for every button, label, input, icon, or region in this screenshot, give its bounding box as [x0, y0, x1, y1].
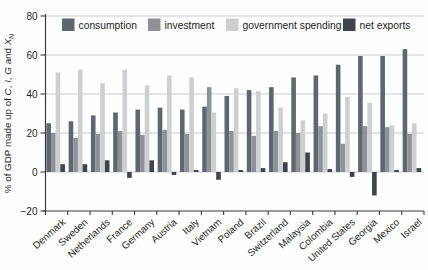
bar-net-exports [372, 172, 377, 195]
bar-consumption [403, 49, 408, 172]
bar-consumption [158, 108, 163, 172]
x-axis-label: Austria [149, 216, 179, 245]
x-axis-label: Israel [399, 216, 424, 240]
bar-government-spending [145, 85, 150, 172]
bar-government-spending [323, 114, 328, 173]
bar-net-exports [83, 164, 88, 172]
bar-consumption [314, 75, 319, 172]
bar-net-exports [328, 169, 333, 172]
bar-government-spending [212, 113, 217, 172]
bar-chart: −20020406080DenmarkSwedenNetherlandsFran… [0, 0, 428, 270]
bar-net-exports [194, 170, 199, 172]
bar-investment [340, 144, 345, 172]
bar-investment [407, 134, 412, 172]
bar-government-spending [78, 70, 83, 172]
bar-consumption [180, 110, 185, 172]
bar-government-spending [189, 77, 194, 172]
bar-consumption [46, 123, 51, 172]
bar-government-spending [278, 108, 283, 172]
bar-investment [118, 131, 123, 172]
y-tick-label: 80 [26, 11, 38, 22]
bar-government-spending [412, 123, 417, 172]
bar-net-exports [105, 160, 110, 172]
bar-consumption [269, 87, 274, 172]
bar-net-exports [394, 170, 399, 172]
legend-swatch-investment [148, 19, 161, 32]
legend-item-government-spending: government spending [226, 19, 342, 32]
bar-net-exports [283, 162, 288, 172]
series-investment [51, 87, 412, 172]
bar-consumption [358, 56, 363, 172]
bar-investment [73, 138, 78, 172]
y-tick-label: −20 [21, 206, 38, 217]
legend-label: net exports [360, 20, 411, 31]
bar-investment [385, 127, 390, 172]
bar-net-exports [60, 164, 65, 172]
bar-government-spending [167, 75, 172, 172]
legend-label: government spending [243, 20, 342, 31]
bar-investment [274, 131, 279, 172]
legend-swatch-government-spending [226, 19, 239, 32]
bar-government-spending [56, 73, 61, 172]
bar-net-exports [350, 172, 355, 177]
legend-label: investment [165, 20, 215, 31]
bar-net-exports [305, 153, 310, 173]
legend-item-net-exports: net exports [343, 19, 410, 32]
legend-item-consumption: consumption [62, 19, 137, 32]
bar-investment [363, 126, 368, 172]
y-tick-label: 40 [26, 89, 38, 100]
bar-investment [296, 133, 301, 172]
bar-investment [96, 134, 101, 172]
y-tick-label: 0 [32, 167, 38, 178]
y-tick-label: 60 [26, 50, 38, 61]
bar-government-spending [345, 97, 350, 172]
bar-consumption [69, 121, 74, 172]
bar-investment [140, 135, 145, 172]
x-axis-label: Mexico [371, 216, 402, 245]
bar-net-exports [261, 168, 266, 172]
bar-government-spending [122, 70, 127, 172]
bar-investment [207, 87, 212, 172]
bar-net-exports [127, 172, 132, 178]
bar-consumption [113, 113, 118, 172]
bar-net-exports [238, 170, 243, 172]
bar-government-spending [301, 120, 306, 172]
bar-investment [318, 126, 323, 172]
bar-net-exports [417, 168, 422, 172]
bar-consumption [91, 115, 96, 172]
bar-investment [162, 130, 167, 172]
bar-net-exports [216, 172, 221, 180]
bar-consumption [291, 77, 296, 172]
legend-swatch-net-exports [343, 19, 356, 32]
bar-consumption [135, 110, 140, 172]
legend: consumptioninvestmentgovernment spending… [62, 19, 410, 32]
legend-label: consumption [79, 20, 138, 31]
bar-investment [251, 136, 256, 172]
bar-consumption [247, 90, 252, 172]
legend-item-investment: investment [148, 19, 214, 32]
bar-consumption [336, 65, 341, 172]
bar-government-spending [390, 125, 395, 172]
bar-consumption [380, 56, 385, 172]
bar-net-exports [172, 172, 177, 175]
bar-government-spending [256, 91, 261, 172]
bar-government-spending [367, 103, 372, 172]
bar-government-spending [100, 83, 105, 172]
chart-figure: −20020406080DenmarkSwedenNetherlandsFran… [0, 0, 428, 270]
bar-investment [51, 133, 56, 172]
bar-investment [229, 131, 234, 172]
x-axis-label: Poland [216, 216, 246, 245]
y-axis-title: % of GDP made up of C, I, G and XN [2, 34, 15, 194]
bar-government-spending [234, 88, 239, 172]
bar-consumption [202, 107, 207, 172]
bar-net-exports [149, 160, 154, 172]
legend-swatch-consumption [62, 19, 75, 32]
bar-investment [185, 134, 190, 172]
bar-consumption [225, 96, 230, 172]
y-tick-label: 20 [26, 128, 38, 139]
